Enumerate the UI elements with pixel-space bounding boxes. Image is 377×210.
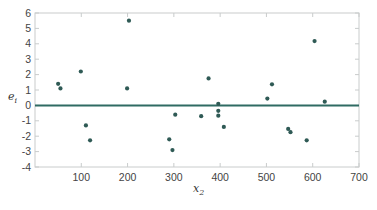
y-tick-label: -2	[22, 130, 31, 142]
data-point	[167, 137, 171, 141]
y-tick-label: -3	[22, 145, 31, 157]
y-axis: -4-3-2-10123456	[22, 7, 359, 173]
data-point	[127, 19, 131, 23]
x-tick-label: 400	[211, 171, 229, 183]
x-tick-label: 600	[304, 171, 322, 183]
data-point	[288, 130, 292, 134]
data-point	[305, 138, 309, 142]
y-tick-label: 4	[25, 37, 31, 49]
data-point	[88, 138, 92, 142]
y-tick-label: 5	[25, 22, 31, 34]
data-point	[312, 39, 316, 43]
residual-scatter-chart: -4-3-2-10123456 100200300400500600700 ei…	[0, 0, 377, 210]
data-point	[84, 123, 88, 127]
y-tick-label: -4	[22, 161, 31, 173]
data-point	[270, 82, 274, 86]
x-tick-label: 100	[73, 171, 91, 183]
data-point	[323, 100, 327, 104]
x-axis: 100200300400500600700	[73, 13, 368, 183]
x-tick-label: 200	[119, 171, 137, 183]
y-axis-label: ei	[8, 90, 18, 105]
data-point	[173, 113, 177, 117]
y-tick-label: 2	[25, 68, 31, 80]
data-point	[58, 86, 62, 90]
data-point	[125, 86, 129, 90]
x-tick-label: 500	[258, 171, 276, 183]
data-point	[216, 102, 220, 106]
data-point	[222, 125, 226, 129]
y-tick-label: 0	[25, 99, 31, 111]
x-axis-label: x2	[193, 182, 204, 197]
x-tick-label: 300	[165, 171, 183, 183]
y-tick-label: -1	[22, 114, 31, 126]
data-point	[170, 148, 174, 152]
y-tick-label: 3	[25, 53, 31, 65]
plot-frame	[35, 13, 359, 167]
y-tick-label: 6	[25, 7, 31, 19]
data-points	[56, 19, 327, 153]
plot-border	[35, 13, 359, 167]
y-tick-label: 1	[25, 84, 31, 96]
data-point	[79, 69, 83, 73]
data-point	[265, 97, 269, 101]
x-tick-label: 700	[350, 171, 368, 183]
data-point	[206, 76, 210, 80]
data-point	[56, 82, 60, 86]
data-point	[199, 114, 203, 118]
data-point	[216, 114, 220, 118]
data-point	[216, 109, 220, 113]
